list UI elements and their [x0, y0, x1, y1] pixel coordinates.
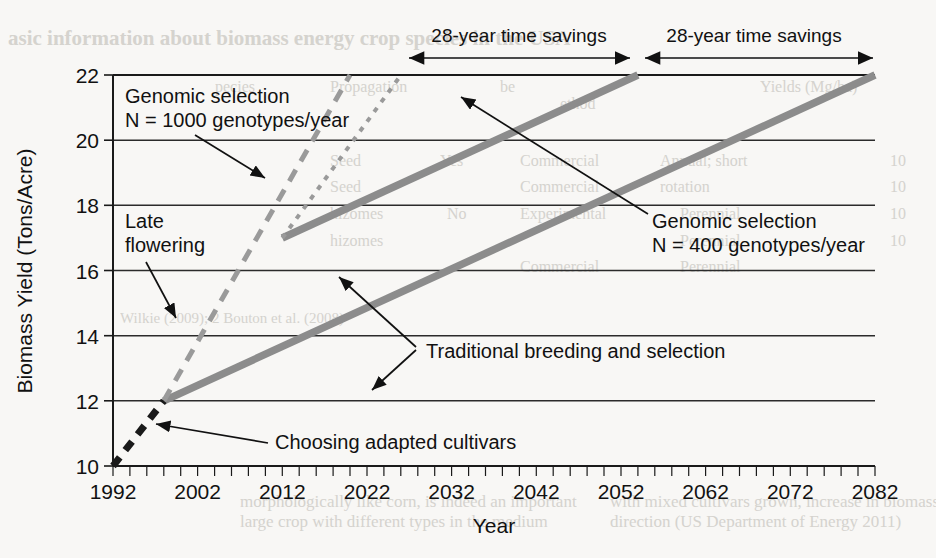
y-tick-label-14: 14 [76, 325, 100, 348]
x-tick-label-2072: 2072 [767, 480, 814, 503]
biomass-yield-chart: 22 20 18 16 14 12 10 Biomass Yield (Tons… [0, 0, 936, 558]
x-tick-label-2002: 2002 [174, 480, 221, 503]
annotation-genomic-400-line2: N = 400 genotypes/year [652, 234, 865, 256]
annotation-genomic-1000-line1: Genomic selection [125, 85, 290, 107]
annotation-choosing-adapted-cultivars-label: Choosing adapted cultivars [275, 431, 516, 453]
annotation-late-flowering-line1: Late [125, 210, 164, 232]
x-tick-label-1992: 1992 [90, 480, 137, 503]
x-tick-label-2022: 2022 [344, 480, 391, 503]
time-savings-annotations: 28-year time savings 28-year time saving… [409, 25, 873, 58]
series-choosing-adapted-cultivars [113, 401, 164, 466]
annotation-genomic-400-line1: Genomic selection [652, 210, 817, 232]
leader-line-genomic-1000 [195, 135, 265, 178]
leader-line-traditional-lower [372, 350, 416, 390]
y-tick-label-12: 12 [76, 390, 99, 413]
annotation-late-flowering-line2: flowering [125, 234, 205, 256]
x-tick-label-2012: 2012 [259, 480, 306, 503]
x-tick-label-2042: 2042 [513, 480, 560, 503]
time-savings-label-left: 28-year time savings [431, 25, 606, 46]
annotation-traditional-breeding-label: Traditional breeding and selection [426, 340, 725, 362]
x-axis-minor-ticks [113, 466, 875, 476]
leader-line-choosing-adapted-cultivars [156, 424, 268, 443]
y-tick-label-10: 10 [76, 455, 99, 478]
x-tick-label-2062: 2062 [682, 480, 729, 503]
y-axis-ticks [104, 75, 113, 466]
x-axis-labels: 1992 2002 2012 2022 2032 2042 2052 2062 … [90, 480, 899, 503]
x-tick-label-2032: 2032 [428, 480, 475, 503]
x-tick-label-2082: 2082 [852, 480, 899, 503]
annotation-genomic-selection-400: Genomic selection N = 400 genotypes/year [461, 97, 865, 256]
chart-page: asic information about biomass energy cr… [0, 0, 936, 558]
y-tick-label-22: 22 [76, 64, 99, 87]
y-tick-label-18: 18 [76, 194, 99, 217]
annotation-genomic-1000-line2: N = 1000 genotypes/year [125, 109, 349, 131]
time-savings-label-right: 28-year time savings [666, 25, 841, 46]
annotation-choosing-adapted-cultivars: Choosing adapted cultivars [156, 424, 516, 453]
y-tick-label-20: 20 [76, 129, 99, 152]
annotation-late-flowering: Late flowering [125, 210, 205, 318]
x-axis-title: Year [473, 514, 515, 537]
x-tick-label-2052: 2052 [598, 480, 645, 503]
y-axis-title: Biomass Yield (Tons/Acre) [13, 148, 36, 393]
y-axis-labels: 22 20 18 16 14 12 10 [76, 64, 100, 478]
y-tick-label-16: 16 [76, 260, 99, 283]
